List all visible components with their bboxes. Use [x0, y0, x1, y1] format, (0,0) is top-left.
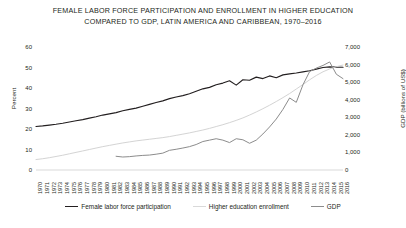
plot-area: [0, 0, 406, 228]
legend-label: Female labor force participation: [81, 203, 171, 210]
legend-item[interactable]: Higher education enrollment: [193, 203, 289, 210]
legend-label: GDP: [327, 203, 341, 210]
legend-label: Higher education enrollment: [209, 203, 289, 210]
chart-legend: Female labor force participationHigher e…: [0, 203, 406, 210]
legend-swatch: [311, 206, 324, 207]
series-line: [36, 65, 343, 159]
legend-swatch: [193, 206, 206, 207]
legend-item[interactable]: Female labor force participation: [65, 203, 171, 210]
legend-item[interactable]: GDP: [311, 203, 341, 210]
series-line: [36, 67, 343, 127]
chart-container: FEMALE LABOR FORCE PARTICIPATION AND ENR…: [0, 0, 406, 228]
series-line: [116, 62, 343, 157]
legend-swatch: [65, 206, 78, 207]
